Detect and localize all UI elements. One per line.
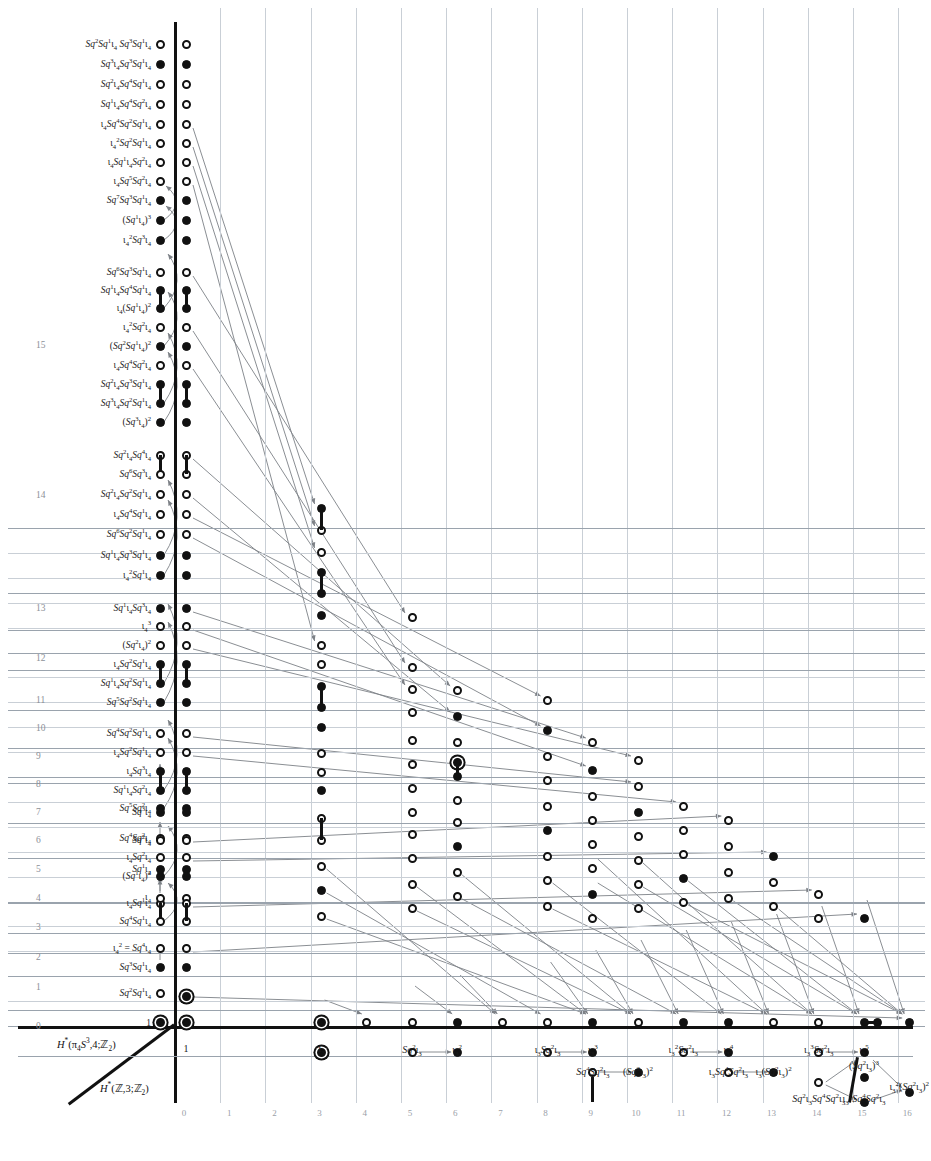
chart-dot — [408, 613, 417, 622]
chart-dot — [679, 850, 688, 859]
generator-dot — [156, 729, 165, 738]
chart-dot — [769, 902, 778, 911]
generator-label: Sq2ι4Sq4ι4 — [114, 448, 151, 462]
y-tick-label: 2 — [36, 952, 41, 962]
chart-dot — [679, 874, 688, 883]
chart-dot — [408, 708, 417, 717]
chart-dot — [634, 880, 643, 889]
generator-dot — [156, 100, 165, 109]
differential-arrow — [462, 899, 676, 1014]
chart-dot — [317, 548, 326, 557]
chart-dot — [634, 832, 643, 841]
grid-vline — [311, 8, 312, 1103]
generator-label: Sq3ι4Sq2Sq1ι4 — [101, 396, 151, 410]
generator-dot — [156, 216, 165, 225]
chart-dot — [905, 1018, 914, 1027]
chart-dot — [182, 60, 191, 69]
generator-dot — [156, 894, 165, 903]
grid-vline — [627, 8, 628, 1103]
chart-dot — [634, 856, 643, 865]
differential-arrow — [193, 185, 315, 641]
grid-hline-major — [8, 933, 925, 934]
generator-label: (Sq2Sq1ι4)2 — [110, 339, 151, 353]
chart-dot — [182, 158, 191, 167]
chart-dot-unit — [182, 1018, 191, 1027]
y-tick-label: 13 — [36, 603, 46, 613]
chart-dot — [543, 696, 552, 705]
generator-label: Sq2Sq1ι4 — [119, 986, 151, 1000]
generator-label: Sq3Sq1ι4 — [119, 960, 151, 974]
generator-label: Sq2ι4Sq2Sq1ι4 — [101, 487, 151, 501]
chart-dot — [814, 914, 823, 923]
generator-label: ι4Sq4Sq2ι4 — [114, 358, 151, 372]
chart-dot — [182, 836, 191, 845]
h0-connector — [591, 1077, 594, 1102]
generator-dot — [156, 641, 165, 650]
differential-arrow — [779, 909, 903, 1014]
arrow-head — [168, 254, 173, 260]
chart-dot — [679, 826, 688, 835]
chart-dot — [182, 216, 191, 225]
chart-dot — [724, 1018, 733, 1027]
h0-connector — [320, 686, 323, 707]
generator-dot — [156, 865, 165, 874]
generator-label: Sq2ι4 — [132, 833, 151, 847]
baseline-generator-label: ι33 — [588, 1043, 598, 1058]
baseline-generator-label: ι3Sq4Sq2ι3 — [709, 1065, 748, 1080]
baseline-generator-label: ι32(Sq2ι3)2 — [889, 1080, 929, 1095]
grid-vline — [537, 8, 538, 1103]
generator-label: Sq2ι4Sq3Sq1ι4 — [101, 377, 151, 391]
generator-label: ι4 — [145, 892, 151, 904]
y-tick-label: 4 — [36, 893, 41, 903]
generator-label: Sq1ι4Sq2ι4 — [114, 783, 151, 797]
generator-label: ι4(Sq1ι4)2 — [117, 301, 151, 315]
differential-arrow — [462, 875, 631, 1014]
chart-dot — [182, 551, 191, 560]
baseline-generator-label: ι32 — [452, 1043, 462, 1058]
chart-dot — [453, 818, 462, 827]
chart-dot — [182, 323, 191, 332]
x-tick-label: 9 — [589, 1108, 594, 1118]
arrow-head — [168, 480, 173, 486]
h0-connector — [320, 572, 323, 593]
x-tick-label: 3 — [317, 1108, 322, 1118]
chart-dot — [814, 890, 823, 899]
generator-label: Sq7Sq3Sq1ι4 — [107, 193, 151, 207]
chart-dot — [634, 808, 643, 817]
grid-vline — [265, 8, 266, 1103]
chart-dot — [182, 641, 191, 650]
x-tick-label: 8 — [543, 1108, 548, 1118]
chart-dot — [543, 902, 552, 911]
arrow-head — [166, 206, 172, 211]
generator-dot — [156, 698, 165, 707]
arrow-head — [580, 762, 586, 767]
chart-dot — [814, 1078, 823, 1087]
generator-label: ι4Sq4Sq1ι4 — [114, 507, 151, 521]
generator-label: ι42Sq3ι4 — [123, 233, 151, 247]
arrow-head — [168, 500, 173, 506]
grid-vline — [491, 8, 492, 1103]
chart-dot — [408, 854, 417, 863]
chart-dot — [588, 816, 597, 825]
generator-dot — [156, 853, 165, 862]
chart-dot — [182, 872, 191, 881]
differential-arrow — [193, 128, 315, 504]
y-tick-label: 5 — [36, 864, 41, 874]
generator-dot — [156, 268, 165, 277]
grid-hline — [8, 1001, 925, 1002]
y-tick-label: 7 — [36, 807, 41, 817]
chart-dot — [317, 611, 326, 620]
generator-dot — [156, 361, 165, 370]
arrow-head — [166, 186, 172, 191]
chart-dot — [408, 736, 417, 745]
chart-dot — [588, 1018, 597, 1027]
chart-dot — [453, 842, 462, 851]
axis-label-upper: H*(π4S3,4;ℤ2) — [57, 1036, 116, 1053]
generator-label: ι42 = Sq4ι4 — [113, 941, 151, 955]
arrow-head — [580, 734, 586, 739]
chart-dot — [182, 530, 191, 539]
x-tick-label: 12 — [722, 1108, 731, 1118]
h0-connector — [185, 771, 188, 790]
generator-label: ι4Sq3ι4 — [126, 764, 151, 778]
chart-dot — [724, 894, 733, 903]
